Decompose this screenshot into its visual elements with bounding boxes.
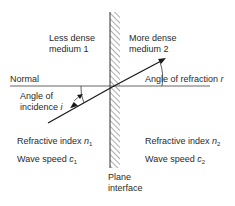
refractive-index-2-subscript: 2 (217, 141, 220, 147)
normal-label: Normal (10, 74, 39, 85)
wave-speed-1-label: Wave speed c1 (17, 154, 77, 168)
angle-incidence-label-line1: Angle of (20, 91, 63, 102)
plane-interface-label-line2: interface (108, 183, 143, 194)
wave-speed-1-subscript: 1 (74, 159, 77, 165)
angle-incidence-arc (74, 86, 84, 103)
angle-refraction-symbol: r (221, 74, 224, 84)
plane-interface-label: Plane interface (108, 172, 143, 194)
medium2-label-line2: medium 2 (129, 44, 177, 55)
angle-incidence-text: incidence (20, 102, 58, 112)
plane-interface-label-line1: Plane (108, 172, 143, 183)
medium1-label: Less dense medium 1 (49, 33, 95, 55)
refracted-arrow-icon (158, 58, 166, 64)
angle-refraction-text: Angle of refraction (145, 74, 218, 84)
angle-incidence-label-line2: incidence i (20, 102, 63, 113)
refractive-index-1-text: Refractive index (17, 136, 82, 146)
medium2-label-line1: More dense (129, 33, 177, 44)
medium1-label-line1: Less dense (49, 33, 95, 44)
refractive-index-2-text: Refractive index (145, 136, 210, 146)
angle-refraction-label: Angle of refraction r (145, 74, 224, 85)
angle-incidence-symbol: i (61, 102, 63, 112)
medium2-label: More dense medium 2 (129, 33, 177, 55)
wave-speed-2-label: Wave speed c2 (145, 154, 205, 168)
wave-speed-2-subscript: 2 (202, 159, 205, 165)
medium1-label-line2: medium 1 (49, 44, 95, 55)
angle-incidence-label: Angle of incidence i (20, 91, 63, 113)
refractive-index-2-label: Refractive index n2 (145, 136, 220, 150)
wave-speed-2-text: Wave speed (145, 154, 195, 164)
refractive-index-1-label: Refractive index n1 (17, 136, 92, 150)
refractive-index-1-subscript: 1 (89, 141, 92, 147)
plane-interface (110, 12, 120, 168)
wave-speed-1-text: Wave speed (17, 154, 67, 164)
